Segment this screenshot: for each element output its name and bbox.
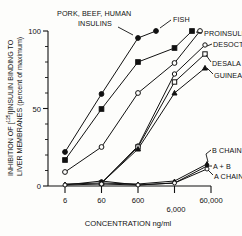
y-axis-title-part1: INHIBITION OF [ [7,122,15,176]
data-series-group [65,31,207,185]
x-tick-label-600: 600 [132,196,145,205]
annotation-a-plus-b: A + B [213,162,231,171]
y-major-ticks [43,31,48,186]
chart-figure: 100 50 0 6 60 600 6,000 60,000 CONCENTRA… [0,0,242,236]
series-line-guinea-pig [102,68,206,183]
leader-guinea-pig [207,68,213,74]
x-tick-label-6: 6 [63,196,67,205]
y-tick-label-50: 50 [33,105,41,114]
svg-text:INHIBITION OF [125I]INSULIN BI: INHIBITION OF [125I]INSULIN BINDING TO [6,39,15,176]
series-line-proinsulin [65,31,200,172]
y-tick-label-0: 0 [37,182,41,191]
y-axis-title-part2: I]INSULIN BINDING TO [7,39,15,115]
y-axis-title-line2: LIVER MEMBRANES (percent of maximum) [16,37,24,176]
x-tick-label-60: 60 [97,196,105,205]
y-tick-label-100: 100 [28,27,41,36]
series-line-desoctapeptide [102,45,206,183]
annotation-proinsulin: PROINSULIN [204,29,242,38]
x-tick-label-6000: 6,000 [166,205,185,214]
annotation-desoctapeptide: DESOCTAPEPTIDE [213,40,242,49]
leader-pork-beef-human [118,27,133,35]
annotation-b-chain: B CHAIN [212,146,242,155]
x-axis-title: CONCENTRATION ng/ml [85,219,172,228]
annotation-desala-desasp: DESALA DESASP. [212,59,242,68]
series-line-desala-desasp [102,54,206,183]
markers-b-chain [63,162,209,186]
annotation-guinea-pig: GUINEA PIG [214,71,242,80]
annotation-a-chain: A CHAIN [214,172,242,181]
annotation-fish: FISH [173,15,190,24]
annotation-pork-beef-human-line1: PORK, BEEF, HUMAN [57,9,131,18]
annotation-pork-beef-human-line2: INSULINS [78,19,112,28]
x-tick-label-60000: 60,000 [199,196,222,205]
leader-desala-desasp [206,55,211,62]
y-axis-title: INHIBITION OF [125I]INSULIN BINDING TO L… [6,37,24,176]
leader-b-chain [206,150,211,162]
leader-fish [160,20,171,28]
leader-desoctapeptide [207,44,212,46]
dose-response-chart: 100 50 0 6 60 600 6,000 60,000 CONCENTRA… [0,0,242,236]
markers-desoctapeptide [99,43,207,185]
series-line-b-chain [65,164,207,184]
axis-lines [48,31,211,186]
